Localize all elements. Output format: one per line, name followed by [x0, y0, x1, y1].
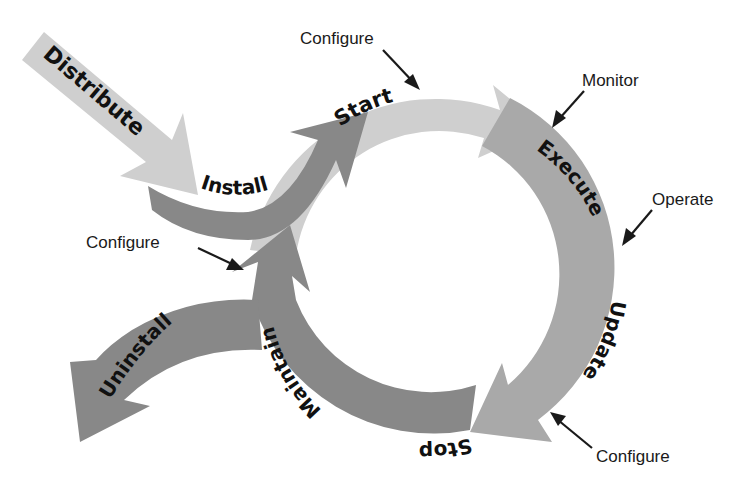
configure-maintain-label: Configure: [86, 233, 160, 252]
configure-maintain-arrowhead-icon: [226, 258, 244, 270]
monitor-pointer: [560, 91, 584, 118]
configure-update-pointer: [558, 420, 592, 448]
configure-maintain-pointer: [198, 248, 232, 264]
start-arrow: [250, 85, 545, 255]
configure-update-label: Configure: [596, 447, 670, 466]
monitor-label: Monitor: [582, 71, 639, 90]
operate-label: Operate: [652, 190, 713, 209]
lifecycle-diagram: Distribute Install Start Execute Update …: [0, 0, 752, 488]
operate-pointer: [630, 210, 652, 236]
stop-label: Stop: [418, 433, 474, 464]
distribute-label: Distribute: [39, 41, 150, 141]
configure-start-label: Configure: [300, 29, 374, 48]
install-label: Install: [198, 170, 270, 200]
